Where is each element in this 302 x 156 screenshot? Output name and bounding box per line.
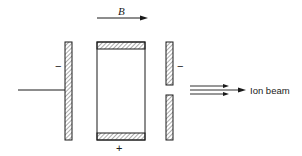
- anode-sign: +: [116, 142, 122, 154]
- ion-beam-label: Ion beam: [250, 85, 290, 96]
- anode-cylinder: [97, 42, 145, 140]
- anode-top-band: [97, 42, 145, 49]
- left-plate-sign: −: [55, 60, 61, 72]
- anode-bottom-band: [97, 133, 145, 140]
- left-cathode-plate: [65, 42, 72, 140]
- right-plate-sign: −: [177, 60, 183, 72]
- field-label: B: [118, 5, 125, 17]
- right-plate-upper: [166, 42, 173, 85]
- ion-source-diagram: B − + − Ion beam: [0, 0, 302, 156]
- ion-beam-arrows: [190, 84, 246, 96]
- right-plate-lower: [166, 95, 173, 140]
